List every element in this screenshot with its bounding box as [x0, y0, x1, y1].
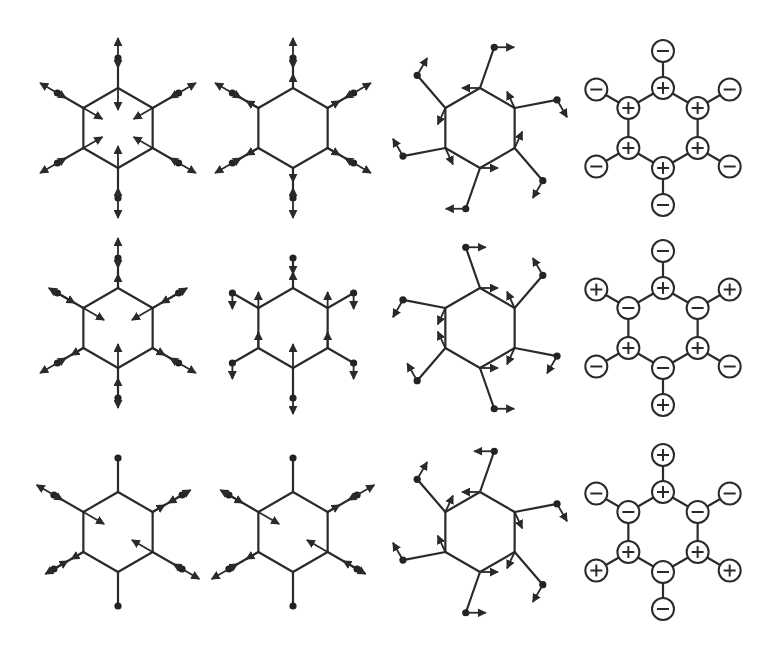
carbon-displacement-arrow — [258, 512, 279, 524]
ring-bond — [83, 348, 118, 368]
ring-bond — [293, 492, 328, 512]
ch-bond — [403, 148, 445, 156]
carbon-displacement-arrow — [71, 348, 83, 355]
plus-phase-icon — [652, 394, 674, 416]
ch-bond — [417, 479, 445, 512]
hydrogen-displacement-arrow — [354, 83, 371, 93]
ring-bond — [83, 148, 118, 168]
mode-panel-r1-c1 — [40, 38, 196, 218]
mode-panel-r2-c1 — [40, 238, 196, 408]
hydrogen-displacement-arrow — [40, 163, 57, 173]
carbon-displacement-arrow — [246, 552, 258, 559]
ring-bond — [480, 148, 515, 168]
ring-bond — [258, 492, 293, 512]
minus-phase-icon — [617, 297, 639, 319]
carbon-displacement-arrow — [246, 101, 258, 108]
ring-bond — [258, 148, 293, 168]
ring-bond — [258, 288, 293, 308]
diagram-canvas — [0, 0, 783, 647]
ch-bond — [480, 368, 494, 409]
plus-phase-icon — [652, 157, 674, 179]
ch-bond — [466, 168, 480, 209]
hydrogen-displacement-arrow — [533, 181, 543, 198]
minus-phase-icon — [652, 598, 674, 620]
carbon-displacement-arrow — [134, 137, 153, 148]
plus-phase-icon — [687, 337, 709, 359]
ch-bond — [515, 148, 543, 181]
minus-phase-icon — [719, 483, 741, 505]
plus-phase-icon — [617, 137, 639, 159]
plus-phase-icon — [687, 541, 709, 563]
hydrogen-displacement-arrow — [557, 100, 567, 117]
plus-phase-icon — [617, 97, 639, 119]
ring-bond — [258, 552, 293, 572]
ch-bond — [515, 504, 557, 512]
minus-phase-icon — [652, 357, 674, 379]
mode-panel-r1-c3 — [393, 44, 567, 213]
hydrogen-displacement-arrow — [354, 163, 371, 173]
plus-phase-icon — [687, 97, 709, 119]
ring-bond — [445, 288, 480, 308]
minus-phase-icon — [585, 356, 607, 378]
plus-phase-icon — [652, 277, 674, 299]
carbon-displacement-arrow — [83, 512, 104, 524]
ring-bond — [83, 288, 118, 308]
mode-panel-r3-c1 — [37, 454, 200, 609]
mode-panel-r2-c2 — [229, 254, 357, 414]
carbon-displacement-arrow — [134, 108, 153, 119]
mode-panel-r3-c3 — [393, 448, 567, 617]
ch-bond — [466, 572, 480, 613]
hydrogen-atom — [289, 602, 296, 609]
ring-bond — [118, 492, 153, 512]
minus-phase-icon — [719, 156, 741, 178]
ring-bond — [293, 88, 328, 108]
carbon-displacement-arrow — [132, 308, 153, 320]
hydrogen-displacement-arrow — [407, 363, 417, 380]
carbon-displacement-arrow — [83, 308, 104, 320]
ring-bond — [293, 348, 328, 368]
mode-panel-r3-c4 — [585, 444, 740, 620]
ch-bond — [417, 75, 445, 108]
ch-bond — [328, 293, 354, 308]
carbon-displacement-arrow — [515, 512, 523, 528]
hydrogen-atom — [289, 454, 296, 461]
ring-bond — [258, 88, 293, 108]
carbon-displacement-arrow — [83, 137, 102, 148]
hydrogen-displacement-arrow — [40, 83, 57, 93]
carbon-displacement-arrow — [153, 348, 165, 355]
hydrogen-displacement-arrow — [40, 363, 57, 373]
hydrogen-atom — [114, 454, 121, 461]
hydrogen-displacement-arrow — [215, 163, 232, 173]
ring-bond — [118, 88, 153, 108]
carbon-displacement-arrow — [246, 148, 258, 155]
hydrogen-displacement-arrow — [533, 585, 543, 602]
minus-phase-icon — [687, 297, 709, 319]
ch-bond — [232, 348, 258, 363]
hydrogen-atom — [114, 602, 121, 609]
ch-bond — [515, 552, 543, 585]
ch-bond — [403, 552, 445, 560]
hydrogen-displacement-arrow — [179, 163, 196, 173]
hydrogen-displacement-arrow — [168, 495, 182, 503]
hydrogen-displacement-arrow — [393, 543, 403, 560]
hydrogen-displacement-arrow — [557, 504, 567, 521]
ring-bond — [445, 552, 480, 572]
ch-bond — [480, 47, 494, 88]
hydrogen-displacement-arrow — [417, 58, 427, 75]
carbon-displacement-arrow — [515, 132, 523, 148]
ch-bond — [515, 275, 543, 308]
ch-bond — [328, 348, 354, 363]
hydrogen-displacement-arrow — [229, 495, 243, 503]
ring-bond — [83, 88, 118, 108]
ch-bond — [515, 348, 557, 356]
mode-panel-r1-c4 — [585, 40, 740, 216]
plus-phase-icon — [719, 560, 741, 582]
plus-phase-icon — [585, 279, 607, 301]
minus-phase-icon — [652, 194, 674, 216]
plus-phase-icon — [687, 137, 709, 159]
mode-panel-r2-c3 — [393, 244, 561, 413]
hydrogen-displacement-arrow — [54, 561, 68, 569]
carbon-displacement-arrow — [438, 108, 446, 124]
carbon-displacement-arrow — [307, 540, 328, 552]
hydrogen-displacement-arrow — [357, 485, 374, 495]
